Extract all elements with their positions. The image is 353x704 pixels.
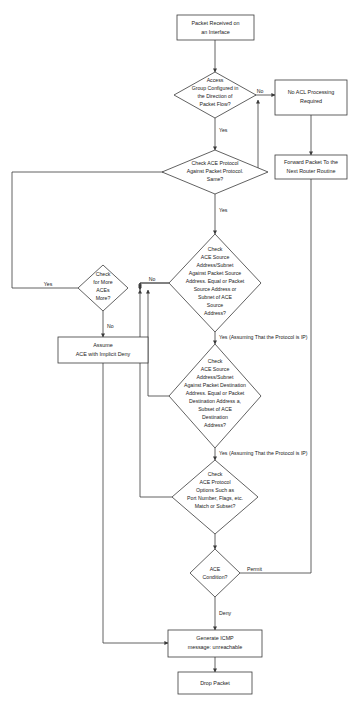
node-generate-icmp[interactable]: Generate ICMP message: unreachable: [168, 630, 262, 657]
ace-condition-diamond: [190, 549, 240, 597]
node-check-destination-address[interactable]: Check ACE Source Address/Subnet Against …: [169, 344, 261, 448]
icmp-line-2: message: unreachable: [188, 644, 243, 650]
check-source-line-7: Subnet of ACE: [198, 294, 233, 300]
edge-more-aces-yes: [12, 172, 170, 288]
packet-received-box: [177, 15, 254, 40]
label-no-more-aces: No: [107, 323, 114, 329]
edges: [12, 40, 311, 672]
options-line-1: Check: [208, 471, 223, 477]
packet-received-line-2: an Interface: [201, 29, 229, 35]
options-line-5: Match or Subset?: [195, 503, 236, 509]
edge-options-no: [140, 290, 172, 497]
label-yes-protocol-same: Yes: [219, 207, 228, 213]
check-dest-line-5: Address. Equal or Packet: [186, 390, 245, 396]
more-aces-line-1: Check: [96, 271, 111, 277]
label-no-access-group: No: [257, 88, 264, 94]
more-aces-line-2: for More: [93, 279, 112, 285]
acl-processing-flowchart: Packet Received on an Interface Access G…: [0, 0, 353, 704]
label-yes-source-address: Yes (Assuming That the Protocol is IP): [219, 334, 308, 340]
node-check-source-address[interactable]: Check ACE Source Address/Subnet Against …: [169, 234, 261, 332]
forward-packet-line-2: Next Router Routine: [287, 168, 336, 174]
access-group-line-1: Access: [207, 77, 224, 83]
check-source-line-2: ACE Source: [201, 254, 230, 260]
implicit-deny-line-1: Assume: [93, 342, 112, 348]
check-source-line-5: Address. Equal or Packet: [186, 278, 245, 284]
check-dest-line-9: Address?: [204, 422, 226, 428]
node-drop-packet[interactable]: Drop Packet: [178, 672, 252, 694]
no-acl-line-2: Required: [300, 98, 322, 104]
access-group-line-4: Packet Flow?: [199, 101, 230, 107]
packet-received-line-1: Packet Received on: [192, 20, 240, 26]
check-dest-line-4: Against Packet Destination: [184, 382, 246, 388]
check-source-line-3: Address/Subnet: [197, 262, 234, 268]
node-assume-implicit-deny[interactable]: Assume ACE with Implicit Deny: [58, 337, 148, 363]
icmp-line-1: Generate ICMP: [196, 635, 234, 641]
node-check-more-aces[interactable]: Check for More ACEs More?: [78, 265, 128, 311]
label-yes-destination-address: Yes (Assuming That the Protocol is IP): [219, 450, 308, 456]
no-acl-line-1: No ACL Processing: [288, 89, 335, 95]
node-access-group-configured[interactable]: Access Group Configured in the Direction…: [174, 72, 256, 118]
node-check-ace-protocol[interactable]: Check ACE Protocol Against Packet Protoc…: [162, 150, 268, 194]
access-group-line-3: the Direction of: [198, 93, 233, 99]
check-source-line-9: Address?: [204, 310, 226, 316]
check-protocol-line-2: Against Packet Protocol.: [187, 168, 244, 174]
edge-implicit-deny-to-icmp: [103, 363, 168, 643]
ace-condition-line-2: Condition?: [203, 574, 228, 580]
node-forward-packet[interactable]: Forward Packet To the Next Router Routin…: [275, 155, 347, 179]
drop-packet-label: Drop Packet: [200, 680, 230, 686]
options-line-3: Options Such as: [196, 487, 234, 493]
check-dest-line-7: Subset of ACE: [198, 406, 232, 412]
check-dest-line-3: Address/Subnet: [197, 374, 234, 380]
implicit-deny-box: [58, 337, 148, 363]
label-yes-access-group: Yes: [219, 127, 228, 133]
more-aces-line-3: ACEs: [96, 287, 110, 293]
label-no-source-address: No: [149, 276, 156, 282]
edge-source-no: [140, 283, 169, 286]
ace-condition-line-1: ACE: [210, 566, 221, 572]
check-protocol-line-1: Check ACE Protocol: [192, 160, 239, 166]
edge-destination-no: [148, 290, 169, 396]
options-line-4: Port Number, Flags, etc.: [187, 495, 243, 501]
options-line-2: ACE Protocol: [199, 479, 230, 485]
check-dest-line-1: Check: [208, 358, 223, 364]
access-group-line-2: Group Configured in: [192, 85, 239, 91]
check-source-line-6: Source Address or: [194, 286, 237, 292]
check-dest-line-2: ACE Source: [201, 366, 230, 372]
check-dest-line-8: Destination: [202, 414, 228, 420]
node-no-acl-processing[interactable]: No ACL Processing Required: [275, 80, 347, 115]
forward-packet-line-1: Forward Packet To the: [284, 159, 338, 165]
check-source-line-1: Check: [208, 246, 223, 252]
implicit-deny-line-2: ACE with Implicit Deny: [76, 351, 131, 357]
node-packet-received[interactable]: Packet Received on an Interface: [177, 15, 254, 40]
label-permit: Permit: [247, 566, 263, 572]
node-ace-condition[interactable]: ACE Condition?: [190, 549, 240, 597]
check-source-line-8: Source: [207, 302, 224, 308]
check-source-line-4: Against Packet Source: [189, 270, 242, 276]
more-aces-line-4: More?: [96, 295, 111, 301]
edge-source-no-path: [140, 283, 169, 288]
check-dest-line-6: Destination Address a,: [189, 398, 241, 404]
label-deny: Deny: [219, 610, 232, 616]
node-check-protocol-options[interactable]: Check ACE Protocol Options Such as Port …: [172, 460, 258, 534]
label-yes-more-aces: Yes: [44, 281, 53, 287]
check-protocol-line-3: Same?: [207, 176, 224, 182]
